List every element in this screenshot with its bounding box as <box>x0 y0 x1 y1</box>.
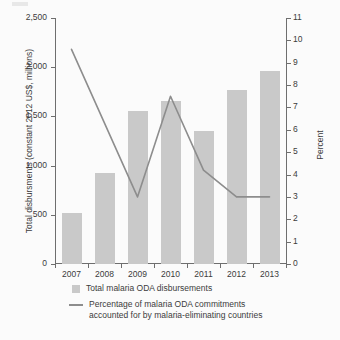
right-axis-tick <box>287 85 291 86</box>
right-axis-tick-label: 6 <box>293 125 298 134</box>
right-axis-tick <box>287 264 291 265</box>
right-axis-tick-label: 3 <box>293 192 298 201</box>
right-axis-tick <box>287 40 291 41</box>
right-axis-tick-label: 10 <box>293 35 302 44</box>
left-axis-tick-label: 2,000 <box>26 62 47 71</box>
right-axis-tick <box>287 197 291 198</box>
left-axis-tick-label: 1,000 <box>26 161 47 170</box>
left-axis-tick-label: 2,500 <box>26 13 47 22</box>
x-axis-tick <box>88 264 89 268</box>
right-axis-tick <box>287 175 291 176</box>
right-axis-tick-label: 5 <box>293 147 298 156</box>
x-axis-tick <box>253 264 254 268</box>
chart-figure: Total disbursments (constant 2012 US$, m… <box>0 0 340 340</box>
page-corner-artifact <box>12 2 28 6</box>
x-axis-tick-label: 2013 <box>250 269 290 279</box>
right-axis-tick-label: 4 <box>293 170 298 179</box>
legend-line-label-line1: Percentage of malaria ODA commitments <box>89 299 262 311</box>
right-axis-tick <box>287 107 291 108</box>
x-axis-tick <box>286 264 287 268</box>
chart-legend: Total malaria ODA disbursements Percenta… <box>72 283 322 326</box>
legend-bar-swatch-icon <box>72 285 80 293</box>
legend-line-swatch-icon <box>69 304 83 306</box>
x-axis-tick <box>121 264 122 268</box>
right-axis-tick-label: 0 <box>293 259 298 268</box>
x-axis-tick <box>55 264 56 268</box>
right-axis-tick <box>287 63 291 64</box>
plot-area <box>55 18 286 264</box>
line-series <box>55 18 286 264</box>
right-axis-tick-label: 9 <box>293 58 298 67</box>
right-axis-tick-label: 7 <box>293 102 298 111</box>
secondary-y-axis-title: Percent <box>313 85 327 205</box>
legend-item-bar: Total malaria ODA disbursements <box>72 283 322 295</box>
legend-line-label-line2: accounted for by malaria-eliminating cou… <box>89 310 262 322</box>
left-axis-tick-label: 500 <box>33 210 47 219</box>
right-axis-tick-label: 2 <box>293 214 298 223</box>
x-axis-tick <box>187 264 188 268</box>
legend-item-line: Percentage of malaria ODA commitments ac… <box>72 299 322 322</box>
right-axis-tick <box>287 130 291 131</box>
legend-line-label-block: Percentage of malaria ODA commitments ac… <box>89 299 262 322</box>
y-axis-title: Total disbursments (constant 2012 US$, m… <box>22 18 36 264</box>
x-axis-tick <box>154 264 155 268</box>
right-axis-tick-label: 11 <box>293 13 302 22</box>
right-axis-tick <box>287 219 291 220</box>
left-axis-tick-label: 0 <box>42 259 47 268</box>
line-path <box>72 49 270 197</box>
legend-bar-label: Total malaria ODA disbursements <box>86 283 212 295</box>
right-axis-tick-label: 1 <box>293 237 298 246</box>
right-axis-line <box>286 18 287 264</box>
right-axis-tick <box>287 18 291 19</box>
right-axis-tick <box>287 242 291 243</box>
left-axis-tick-label: 1,500 <box>26 111 47 120</box>
x-axis-tick <box>220 264 221 268</box>
right-axis-tick-label: 8 <box>293 80 298 89</box>
right-axis-tick <box>287 152 291 153</box>
